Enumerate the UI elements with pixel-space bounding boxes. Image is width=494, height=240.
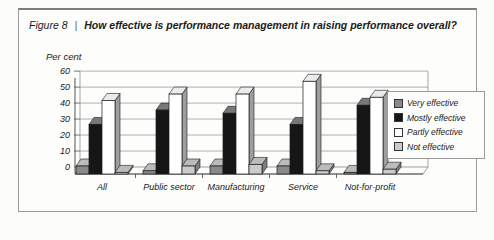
bar-front-face — [182, 166, 195, 174]
x-axis-category-label: All — [96, 182, 108, 192]
legend-swatch — [394, 142, 403, 151]
bar-front-face — [277, 166, 290, 174]
y-axis-tick-label: 20 — [59, 130, 70, 140]
legend-item-not-effective: Not effective — [394, 142, 480, 152]
legend-label: Mostly effective — [407, 113, 466, 123]
legend-item-mostly-effective: Mostly effective — [394, 113, 480, 123]
bar-front-face — [156, 110, 169, 174]
bar-public-sector-partly-effective — [169, 87, 187, 174]
bar-front-face — [89, 124, 102, 174]
x-axis-category-label: Not-for-profit — [345, 182, 396, 192]
bar-not-for-profit-partly-effective — [370, 90, 388, 174]
bar-front-face — [383, 169, 396, 174]
bar-front-face — [357, 105, 370, 174]
x-axis-category-label: Public sector — [143, 182, 196, 192]
bar-front-face — [290, 124, 303, 174]
bar-front-face — [115, 172, 128, 174]
y-axis-tick-label: 30 — [60, 114, 70, 124]
y-axis-tick-label: 10 — [60, 146, 70, 156]
legend-item-partly-effective: Partly effective — [394, 127, 480, 137]
bar-front-face — [344, 172, 357, 174]
legend-swatch — [394, 128, 403, 137]
bar-front-face — [370, 97, 383, 174]
legend-label: Not effective — [407, 142, 454, 152]
x-axis-category-label: Service — [288, 182, 318, 192]
bar-front-face — [249, 164, 262, 174]
legend-swatch — [394, 113, 403, 122]
bar-front-face — [210, 166, 223, 174]
bar-front-face — [76, 166, 89, 174]
bar-front-face — [236, 94, 249, 174]
y-axis-tick-label: 60 — [60, 66, 70, 76]
legend-item-very-effective: Very effective — [394, 98, 480, 108]
y-axis-title: Per cent — [46, 51, 82, 62]
bar-front-face — [316, 171, 329, 174]
bar-front-face — [102, 100, 115, 174]
legend-label: Partly effective — [407, 127, 463, 137]
chart-legend: Very effectiveMostly effectivePartly eff… — [387, 91, 485, 159]
y-axis-tick-label: 50 — [60, 82, 70, 92]
bar-side-face — [115, 93, 120, 174]
bar-front-face — [143, 171, 156, 174]
legend-label: Very effective — [407, 98, 458, 108]
bar-service-partly-effective — [303, 74, 321, 174]
bar-all-partly-effective — [102, 93, 120, 174]
y-axis-tick-label: 0 — [65, 162, 70, 172]
bar-front-face — [303, 81, 316, 174]
x-axis-category-label: Manufacturing — [207, 182, 264, 192]
bar-front-face — [223, 113, 236, 174]
legend-swatch — [394, 99, 403, 108]
bar-side-face — [316, 74, 321, 174]
bar-front-face — [169, 94, 182, 174]
y-axis-tick-label: 40 — [60, 98, 70, 108]
